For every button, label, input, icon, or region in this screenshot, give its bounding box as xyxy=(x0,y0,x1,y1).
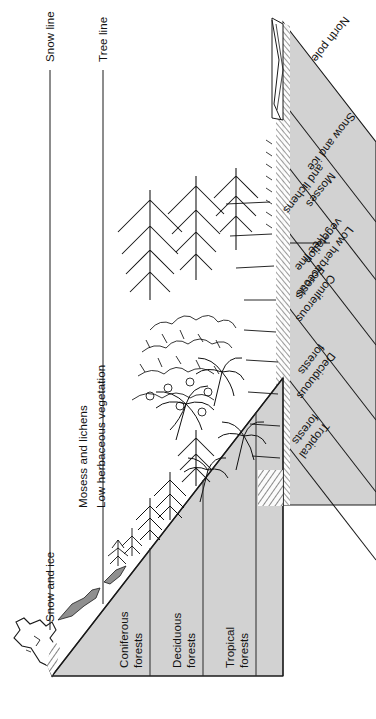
altitude-zone-label-line1: Deciduous xyxy=(171,613,185,668)
vegetation-zonation-figure: Snow line Tree line Snow and ice Mosess … xyxy=(0,0,376,719)
altitude-zone-label-low-herbaceous-vegetation: Low herbaceous vegetation xyxy=(95,365,109,508)
altitude-zone-label-mosses-and-lichens: Mosess and lichens xyxy=(77,405,91,508)
conifer-cluster-small xyxy=(108,528,142,566)
shrub-mass xyxy=(132,315,236,416)
altitude-zone-label-line2: forests xyxy=(238,627,252,668)
altitude-zone-label-snow-and-ice: Snow and ice xyxy=(44,552,58,622)
altitude-zone-label-deciduous-forests: Deciduous forests xyxy=(171,613,198,668)
altitude-zone-label-line1: Tropical xyxy=(224,627,238,668)
ground-texture xyxy=(266,140,272,228)
tree-line-callout-label: Tree line xyxy=(97,17,111,62)
snow-line-callout-label: Snow line xyxy=(44,11,58,62)
altitude-zone-label-tropical-forests: Tropical forests xyxy=(224,627,251,668)
mountain-summit-snowcap xyxy=(14,618,60,676)
callout-leader-lines xyxy=(50,70,103,630)
altitude-zone-label-line1: Coniferous xyxy=(118,611,132,668)
tropical-hatch-block xyxy=(258,470,283,506)
altitude-zone-label-line2: forests xyxy=(185,613,199,668)
altitude-zone-label-coniferous-forests: Coniferous forests xyxy=(118,611,145,668)
altitude-zone-label-line2: forests xyxy=(132,611,146,668)
